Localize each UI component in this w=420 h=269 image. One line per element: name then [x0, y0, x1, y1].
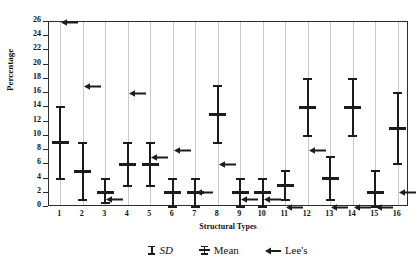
sd-error-bar	[374, 171, 376, 207]
sd-cap-upper	[281, 170, 290, 172]
chart-legend: SDMeanLee's	[48, 239, 408, 261]
legend-item-mean: Mean	[199, 244, 239, 256]
x-tick-label: 11	[274, 209, 294, 218]
sd-cap-upper	[371, 170, 380, 172]
y-tick-label: 24	[33, 29, 41, 38]
sd-cap-lower	[213, 142, 222, 144]
mean-marker	[187, 191, 204, 194]
y-tick-label: 12	[33, 115, 41, 124]
sd-cap-upper	[191, 178, 200, 180]
mean-marker	[322, 177, 339, 180]
x-tick-label: 7	[184, 209, 204, 218]
legend-item-lees: Lee's	[265, 244, 308, 256]
sd-cap-upper	[168, 178, 177, 180]
sd-cap-lower	[78, 199, 87, 201]
sd-cap-lower	[146, 185, 155, 187]
y-tick-label: 10	[33, 129, 41, 138]
sd-cap-upper	[258, 178, 267, 180]
lees-arrow-marker	[264, 196, 281, 203]
y-tick-label: 2	[37, 186, 41, 195]
sd-cap-upper	[56, 106, 65, 108]
sd-cap-lower	[348, 135, 357, 137]
y-tick-label: 26	[33, 15, 41, 24]
x-tick-label: 9	[229, 209, 249, 218]
legend-label: Mean	[214, 244, 239, 256]
x-tick-label: 15	[364, 209, 384, 218]
sd-cap-lower	[303, 135, 312, 137]
sd-cap-upper	[393, 92, 402, 94]
legend-item-sd: SD	[148, 244, 172, 256]
legend-label: Lee's	[285, 244, 308, 256]
mean-bar-icon	[199, 245, 210, 256]
sd-cap-upper	[101, 178, 110, 180]
y-tick-label: 20	[33, 58, 41, 67]
y-tick-label: 18	[33, 72, 41, 81]
y-tick-label: 4	[37, 172, 41, 181]
x-tick-label: 5	[139, 209, 159, 218]
mean-marker	[52, 141, 69, 144]
sd-cap-upper	[213, 85, 222, 87]
left-arrow-icon	[265, 245, 281, 255]
sd-cap-lower	[123, 185, 132, 187]
x-tick-label: 13	[319, 209, 339, 218]
x-tick-label: 14	[342, 209, 362, 218]
y-tick-label: 8	[37, 143, 41, 152]
y-tick-label: 6	[37, 157, 41, 166]
x-tick-label: 2	[72, 209, 92, 218]
lees-arrow-marker	[399, 189, 416, 196]
mean-marker	[74, 170, 91, 173]
x-tick-label: 6	[162, 209, 182, 218]
sd-cap-upper	[303, 78, 312, 80]
plot-area	[48, 21, 408, 206]
lees-arrow-marker	[241, 196, 258, 203]
mean-marker	[389, 127, 406, 130]
mean-marker	[299, 106, 316, 109]
sd-errorbar-icon	[148, 245, 155, 256]
x-tick-label: 8	[207, 209, 227, 218]
mean-marker	[254, 191, 271, 194]
lees-arrow-marker	[219, 161, 236, 168]
x-tick-label: 16	[387, 209, 407, 218]
sd-cap-upper	[123, 142, 132, 144]
y-tick-label: 0	[37, 200, 41, 209]
sd-cap-lower	[326, 199, 335, 201]
mean-marker	[344, 106, 361, 109]
chart-figure: 02468101214161820222426 Percentage 12345…	[0, 0, 420, 269]
mean-marker	[367, 191, 384, 194]
sd-cap-lower	[56, 178, 65, 180]
sd-cap-lower	[281, 199, 290, 201]
lees-arrow-marker	[84, 83, 101, 90]
sd-cap-upper	[146, 142, 155, 144]
lees-arrow-marker	[309, 147, 326, 154]
mean-marker	[232, 191, 249, 194]
mean-marker	[209, 113, 226, 116]
y-axis-title: Percentage	[5, 75, 15, 91]
sd-cap-upper	[236, 178, 245, 180]
x-tick-label: 1	[49, 209, 69, 218]
y-tick-label: 14	[33, 100, 41, 109]
mean-marker	[164, 191, 181, 194]
lees-arrow-marker	[151, 154, 168, 161]
sd-cap-upper	[348, 78, 357, 80]
x-tick-label: 10	[252, 209, 272, 218]
lees-arrow-marker	[129, 90, 146, 97]
y-tick-label: 22	[33, 43, 41, 52]
mean-marker	[142, 163, 159, 166]
sd-cap-upper	[326, 156, 335, 158]
mean-marker	[277, 184, 294, 187]
x-tick-label: 4	[117, 209, 137, 218]
sd-cap-upper	[78, 142, 87, 144]
mean-marker	[97, 191, 114, 194]
lees-arrow-marker	[174, 147, 191, 154]
x-tick-label: 12	[297, 209, 317, 218]
x-axis-title: Structural Types	[48, 222, 408, 231]
legend-label: SD	[159, 244, 172, 256]
lees-arrow-marker	[61, 19, 78, 26]
mean-marker	[119, 163, 136, 166]
sd-cap-lower	[393, 163, 402, 165]
y-tick-label: 16	[33, 86, 41, 95]
sd-cap-lower	[101, 202, 110, 204]
x-tick-label: 3	[94, 209, 114, 218]
